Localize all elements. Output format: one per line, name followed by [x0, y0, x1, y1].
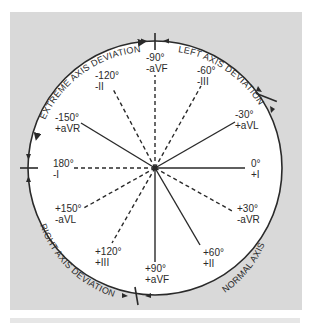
center-point [153, 166, 158, 171]
label-angle-minus-30: -30° [235, 109, 253, 120]
hexaxial-diagram: -90° -aVF -60° -III -30° +aVL 0° +I +30°… [0, 0, 309, 329]
label-angle-0: 0° [251, 158, 261, 169]
label-lead-plus-150: -aVL [55, 214, 77, 225]
label-angle-plus-60: +60° [203, 247, 224, 258]
label-lead-minus-120: -II [95, 81, 104, 92]
label-lead-minus-150: +aVR [55, 123, 80, 134]
label-lead-plus-60: +II [203, 258, 214, 269]
caption-bar [10, 318, 300, 323]
label-lead-plus-120: +III [95, 257, 109, 268]
label-lead-180: -I [53, 169, 59, 180]
label-lead-plus-90: +aVF [145, 274, 169, 285]
label-angle-plus-120: +120° [95, 246, 122, 257]
label-lead-0: +I [251, 169, 260, 180]
label-lead-plus-30: -aVR [237, 214, 260, 225]
label-angle-minus-60: -60° [197, 65, 215, 76]
label-angle-minus-90: -90° [146, 52, 164, 63]
label-angle-plus-150: +150° [55, 203, 82, 214]
label-angle-plus-90: +90° [145, 263, 166, 274]
label-lead-minus-60: -III [197, 76, 209, 87]
label-angle-180: 180° [53, 158, 74, 169]
label-lead-minus-30: +aVL [235, 120, 259, 131]
label-angle-minus-120: -120° [95, 70, 119, 81]
label-angle-plus-30: +30° [237, 203, 258, 214]
label-angle-minus-150: -150° [55, 112, 79, 123]
label-lead-minus-90: -aVF [146, 63, 168, 74]
